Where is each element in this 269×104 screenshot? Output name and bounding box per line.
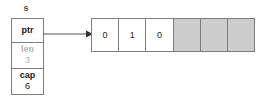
struct-field-len-value: 3 xyxy=(12,55,43,66)
struct-field-len: len 3 xyxy=(12,42,43,68)
buffer-cell: 0 xyxy=(92,19,119,51)
buffer-cell-spare xyxy=(228,19,254,51)
buffer-cell: 1 xyxy=(119,19,146,51)
struct-field-cap-label: cap xyxy=(12,70,43,81)
struct-field-cap-value: 6 xyxy=(12,81,43,92)
heap-buffer-box: 0 1 0 xyxy=(91,18,255,52)
slice-memory-layout-diagram: s ptr len 3 cap 6 0 1 0 xyxy=(0,0,269,104)
struct-field-cap: cap 6 xyxy=(12,68,43,94)
struct-field-len-label: len xyxy=(12,44,43,55)
struct-field-ptr-label: ptr xyxy=(12,19,43,42)
struct-field-ptr: ptr xyxy=(12,19,43,42)
buffer-cell-spare xyxy=(201,19,228,51)
variable-name-label: s xyxy=(18,2,34,14)
buffer-cell-spare xyxy=(174,19,201,51)
slice-struct-box: ptr len 3 cap 6 xyxy=(11,18,44,95)
pointer-arrow-icon xyxy=(43,26,93,42)
buffer-cell: 0 xyxy=(146,19,173,51)
